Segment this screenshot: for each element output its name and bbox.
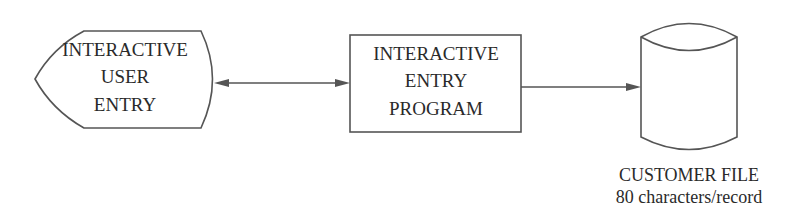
node-label-line: PROGRAM: [389, 98, 483, 119]
arrowhead-right-icon: [335, 79, 350, 87]
cylinder-body: [641, 24, 737, 150]
arrowhead-right-icon: [626, 83, 641, 91]
node-label-line: INTERACTIVE: [373, 43, 499, 64]
node-label-line: ENTRY: [405, 70, 468, 91]
node-customer-file: CUSTOMER FILE 80 characters/record: [616, 24, 762, 208]
arrowhead-left-icon: [214, 79, 229, 87]
edge-program-to-customer-file: [521, 83, 641, 91]
node-label-line: INTERACTIVE: [62, 39, 188, 60]
edge-user-entry-to-program: [214, 79, 350, 87]
flowchart-canvas: INTERACTIVE USER ENTRY INTERACTIVE ENTRY…: [0, 0, 808, 221]
node-label-line: ENTRY: [94, 94, 157, 115]
file-caption-detail: 80 characters/record: [616, 187, 762, 207]
node-interactive-entry-program: INTERACTIVE ENTRY PROGRAM: [350, 35, 521, 132]
file-caption-title: CUSTOMER FILE: [619, 165, 759, 185]
node-label-line: USER: [101, 66, 150, 87]
node-interactive-user-entry: INTERACTIVE USER ENTRY: [35, 31, 213, 128]
